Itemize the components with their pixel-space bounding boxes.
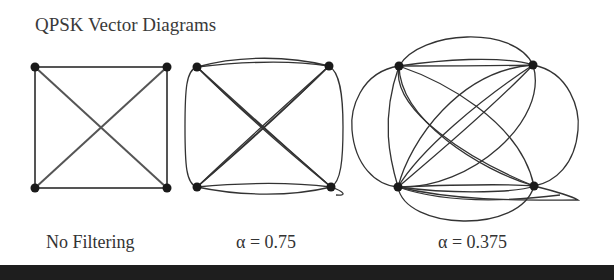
diagram-alpha-0375 bbox=[352, 37, 578, 221]
label-alpha-0375: α = 0.375 bbox=[438, 232, 507, 253]
diagram-alpha-075 bbox=[185, 58, 343, 195]
diagram-no-filtering bbox=[35, 67, 167, 188]
bottom-border-bar bbox=[0, 265, 614, 280]
label-alpha-075: α = 0.75 bbox=[236, 232, 296, 253]
label-no-filtering: No Filtering bbox=[46, 232, 135, 253]
